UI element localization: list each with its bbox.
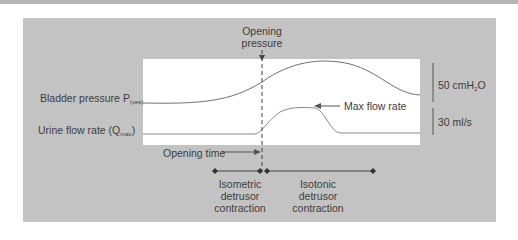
bladder-pressure-label: Bladder pressure P(ves) [40,92,143,108]
opening-pressure-arrowhead [259,55,265,61]
max-flow-rate-label: Max flow rate [344,100,406,112]
opening-time-label: Opening time [163,147,225,159]
phase-marker [264,168,270,174]
phase-marker [212,168,218,174]
phase-marker [370,168,376,174]
isotonic-phase-label: Isotonic detrusor contraction [282,178,354,214]
flow-scale-label: 30 ml/s [438,116,472,128]
isometric-phase-label: Isometric detrusor contraction [205,178,275,214]
pressure-scale-label: 50 cmH2O [438,79,486,95]
phase-marker [257,168,263,174]
urine-flow-label: Urine flow rate (Qmax) [38,124,135,140]
bladder-pressure-curve [143,61,420,103]
opening-pressure-label: Opening pressure [239,25,285,49]
opening-time-arrowhead [254,149,261,155]
